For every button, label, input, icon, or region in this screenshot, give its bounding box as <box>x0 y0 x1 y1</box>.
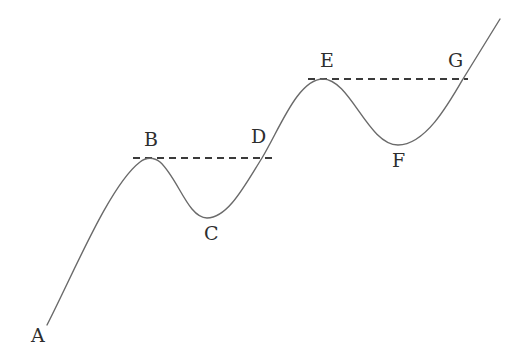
label-d: D <box>251 125 266 147</box>
label-e: E <box>320 49 334 71</box>
label-b: B <box>144 128 158 150</box>
label-g: G <box>448 49 463 71</box>
label-f: F <box>392 149 405 171</box>
wave-curve <box>47 19 500 325</box>
label-a: A <box>30 324 45 346</box>
wave-diagram: A B C D E F G <box>0 0 519 359</box>
label-c: C <box>204 222 219 244</box>
